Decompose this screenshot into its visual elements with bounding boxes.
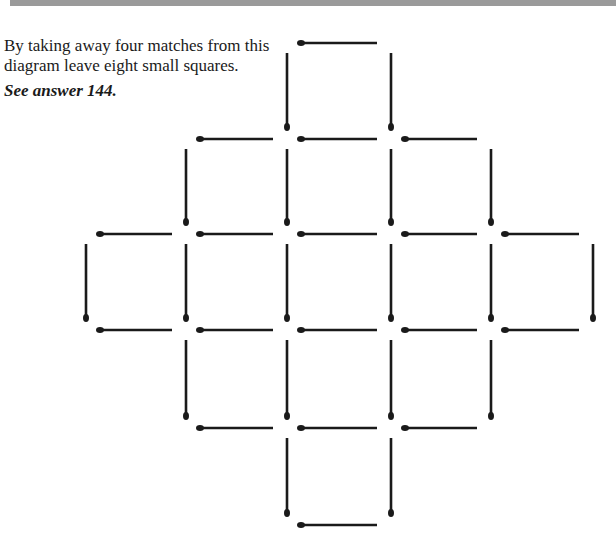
match-head xyxy=(297,136,305,142)
matchstick-vertical[interactable] xyxy=(284,244,290,322)
matchstick-vertical[interactable] xyxy=(284,340,290,420)
matchstick-horizontal[interactable] xyxy=(297,522,377,528)
matchstick-horizontal[interactable] xyxy=(196,231,273,237)
matchstick-vertical[interactable] xyxy=(83,244,89,322)
match-head xyxy=(590,314,596,322)
match-head xyxy=(96,327,104,333)
matchstick-vertical[interactable] xyxy=(183,340,189,420)
match-head xyxy=(488,412,494,420)
matchstick-horizontal[interactable] xyxy=(401,425,477,431)
matchstick-vertical[interactable] xyxy=(590,244,596,322)
matchstick-diagram xyxy=(0,0,616,550)
match-head xyxy=(401,425,409,431)
matchstick-horizontal[interactable] xyxy=(297,327,377,333)
matchstick-horizontal[interactable] xyxy=(196,425,273,431)
match-head xyxy=(401,231,409,237)
matchstick-horizontal[interactable] xyxy=(96,231,172,237)
matchstick-vertical[interactable] xyxy=(488,149,494,226)
match-head xyxy=(401,136,409,142)
match-head xyxy=(501,231,509,237)
match-head xyxy=(297,40,305,46)
matchstick-horizontal[interactable] xyxy=(196,136,273,142)
match-head xyxy=(183,218,189,226)
matchstick-vertical[interactable] xyxy=(388,149,394,226)
matchstick-horizontal[interactable] xyxy=(401,231,477,237)
match-head xyxy=(196,327,204,333)
matchstick-vertical[interactable] xyxy=(388,53,394,131)
match-head xyxy=(388,412,394,420)
matchstick-vertical[interactable] xyxy=(284,53,290,131)
matchstick-vertical[interactable] xyxy=(388,340,394,420)
match-head xyxy=(284,412,290,420)
match-head xyxy=(388,218,394,226)
matchstick-vertical[interactable] xyxy=(183,244,189,322)
matchstick-horizontal[interactable] xyxy=(297,40,377,46)
matchstick-vertical[interactable] xyxy=(388,244,394,322)
matchstick-horizontal[interactable] xyxy=(501,231,579,237)
match-head xyxy=(196,231,204,237)
match-head xyxy=(196,136,204,142)
match-head xyxy=(488,314,494,322)
match-head xyxy=(388,509,394,517)
match-head xyxy=(183,412,189,420)
matchstick-horizontal[interactable] xyxy=(297,231,377,237)
match-head xyxy=(297,327,305,333)
matchstick-horizontal[interactable] xyxy=(96,327,172,333)
matchstick-vertical[interactable] xyxy=(284,438,290,517)
matchstick-vertical[interactable] xyxy=(488,244,494,322)
match-head xyxy=(297,425,305,431)
match-head xyxy=(488,218,494,226)
matchstick-horizontal[interactable] xyxy=(501,327,579,333)
match-head xyxy=(284,123,290,131)
match-head xyxy=(284,509,290,517)
match-head xyxy=(388,123,394,131)
matchstick-horizontal[interactable] xyxy=(401,136,477,142)
match-head xyxy=(388,314,394,322)
match-head xyxy=(401,327,409,333)
matchstick-vertical[interactable] xyxy=(388,438,394,517)
match-head xyxy=(284,314,290,322)
match-head xyxy=(196,425,204,431)
matchstick-horizontal[interactable] xyxy=(297,136,377,142)
match-head xyxy=(501,327,509,333)
match-head xyxy=(96,231,104,237)
matchstick-vertical[interactable] xyxy=(284,149,290,226)
matchstick-vertical[interactable] xyxy=(183,149,189,226)
matchstick-horizontal[interactable] xyxy=(401,327,477,333)
match-head xyxy=(183,314,189,322)
match-head xyxy=(284,218,290,226)
match-head xyxy=(297,231,305,237)
match-head xyxy=(297,522,305,528)
matchstick-horizontal[interactable] xyxy=(297,425,377,431)
match-head xyxy=(83,314,89,322)
matchstick-horizontal[interactable] xyxy=(196,327,273,333)
matchstick-vertical[interactable] xyxy=(488,340,494,420)
